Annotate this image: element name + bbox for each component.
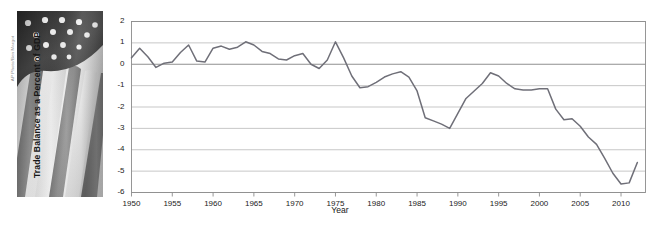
y-axis-title: Trade Balance as a Percent of GDP — [32, 15, 42, 195]
y-tick-label: 1 — [105, 37, 125, 46]
y-tick-label: 0 — [105, 59, 125, 68]
y-tick-label: -4 — [105, 144, 125, 153]
y-tick-label: 2 — [105, 16, 125, 25]
x-tick-label: 2010 — [601, 199, 641, 208]
y-tick-label: -2 — [105, 102, 125, 111]
x-tick-marks — [132, 193, 622, 197]
chart-svg — [0, 0, 661, 228]
x-tick-label: 1965 — [234, 199, 274, 208]
x-tick-label: 1960 — [193, 199, 233, 208]
x-tick-label: 1975 — [315, 199, 355, 208]
y-tick-label: -3 — [105, 123, 125, 132]
y-tick-label: -5 — [105, 166, 125, 175]
x-tick-label: 1950 — [112, 199, 152, 208]
trade-balance-line — [132, 42, 638, 184]
x-tick-label: 1990 — [438, 199, 478, 208]
x-tick-label: 1970 — [275, 199, 315, 208]
x-tick-label: 1955 — [152, 199, 192, 208]
x-tick-label: 2000 — [519, 199, 559, 208]
x-tick-label: 1985 — [397, 199, 437, 208]
x-tick-label: 2005 — [560, 199, 600, 208]
x-tick-label: 1995 — [479, 199, 519, 208]
grid-lines — [132, 22, 646, 193]
y-tick-label: -1 — [105, 80, 125, 89]
x-tick-label: 1980 — [356, 199, 396, 208]
trade-balance-figure: AP Photo/Ben Margot — [0, 0, 661, 228]
chart-area: Trade Balance as a Percent of GDP Year 2… — [0, 0, 661, 228]
y-tick-label: -6 — [105, 187, 125, 196]
